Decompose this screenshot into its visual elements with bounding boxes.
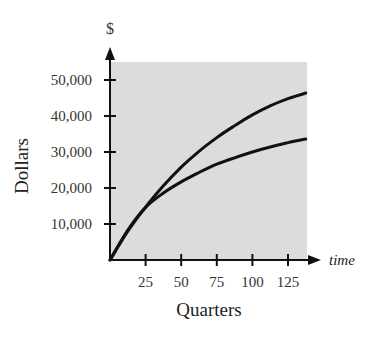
y-axis-unit-label: $: [106, 20, 114, 37]
x-tick-label: 25: [138, 274, 153, 290]
x-axis-title: Quarters: [176, 299, 241, 320]
y-tick-label: 40,000: [51, 108, 92, 124]
plot-background: [111, 62, 307, 260]
y-tick-label: 30,000: [51, 144, 92, 160]
y-axis-ticks: 10,00020,00030,00040,00050,000: [51, 72, 116, 232]
x-tick-label: 75: [209, 274, 224, 290]
x-tick-label: 125: [277, 274, 300, 290]
y-axis-title: Dollars: [11, 138, 32, 194]
x-axis-end-label: time: [329, 252, 355, 268]
line-chart: 10,00020,00030,00040,00050,000 255075100…: [0, 0, 380, 343]
y-tick-label: 10,000: [51, 216, 92, 232]
y-axis-arrow-icon: [105, 47, 115, 60]
y-tick-label: 20,000: [51, 180, 92, 196]
x-tick-label: 50: [174, 274, 189, 290]
y-tick-label: 50,000: [51, 72, 92, 88]
x-axis-arrow-icon: [308, 255, 321, 265]
x-tick-label: 100: [241, 274, 264, 290]
